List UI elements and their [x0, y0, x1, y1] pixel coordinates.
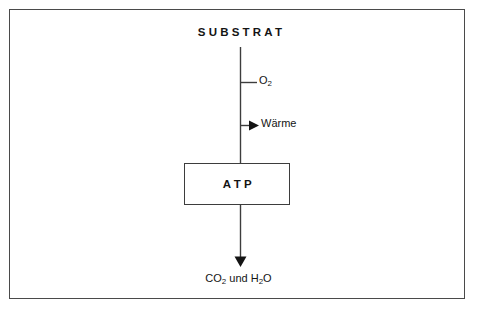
heat-label: Wärme — [261, 117, 296, 129]
oxygen-label-subscript: 2 — [268, 79, 272, 88]
diagram-root: SUBSTRAT O2 Wärme ATP CO2 und H2O — [0, 0, 477, 313]
oxygen-label-main: O — [259, 74, 268, 86]
atp-node-label: ATP — [187, 164, 291, 204]
oxygen-label: O2 — [259, 74, 272, 86]
atp-node-box: ATP — [184, 163, 290, 205]
products-co2-main: CO — [205, 272, 222, 284]
diagram-frame — [9, 9, 465, 299]
products-conjunction: und — [226, 272, 250, 284]
products-co2-subscript: 2 — [222, 277, 226, 286]
products-label: CO2 und H2O — [0, 272, 477, 284]
page-title: SUBSTRAT — [3, 26, 477, 38]
products-h2o-subscript: 2 — [259, 277, 263, 286]
products-h2o-main-a: H — [251, 272, 259, 284]
products-h2o-main-b: O — [263, 272, 272, 284]
